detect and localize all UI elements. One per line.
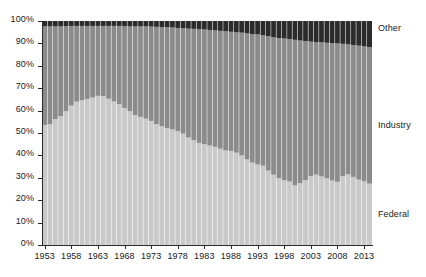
band-other bbox=[244, 21, 250, 33]
bar-separator bbox=[233, 21, 234, 245]
band-federal bbox=[90, 98, 96, 245]
bar-separator bbox=[52, 21, 53, 245]
band-industry bbox=[340, 44, 346, 176]
band-other bbox=[361, 21, 367, 46]
band-other bbox=[74, 21, 80, 26]
band-industry bbox=[159, 27, 165, 126]
band-industry bbox=[90, 26, 96, 98]
y-tick-label: 10% bbox=[16, 216, 34, 226]
bar-separator bbox=[356, 21, 357, 245]
band-federal bbox=[319, 176, 325, 245]
band-federal bbox=[186, 137, 192, 245]
band-federal bbox=[276, 178, 282, 245]
bar-separator bbox=[318, 21, 319, 245]
band-industry bbox=[234, 32, 240, 153]
band-other bbox=[345, 21, 351, 44]
band-industry bbox=[218, 31, 224, 149]
bar-separator bbox=[281, 21, 282, 245]
band-industry bbox=[228, 32, 234, 151]
series-label-industry: Industry bbox=[378, 120, 411, 130]
band-federal bbox=[250, 163, 256, 245]
band-other bbox=[58, 21, 64, 26]
y-tick-label: 60% bbox=[16, 104, 34, 114]
plot-area bbox=[42, 21, 372, 245]
band-federal bbox=[143, 119, 149, 245]
band-federal bbox=[196, 143, 202, 245]
band-other bbox=[101, 21, 107, 26]
band-other bbox=[271, 21, 277, 37]
bar-separator bbox=[340, 21, 341, 245]
band-industry bbox=[180, 28, 186, 134]
band-industry bbox=[127, 26, 133, 111]
bar-separator bbox=[297, 21, 298, 245]
bar-separator bbox=[191, 21, 192, 245]
bar-separator bbox=[185, 21, 186, 245]
stacked-area-chart: 0%10%20%30%40%50%60%70%80%90%100% 195319… bbox=[0, 0, 426, 277]
y-tick-mark bbox=[38, 21, 42, 22]
band-federal bbox=[132, 115, 138, 245]
bar-separator bbox=[153, 21, 154, 245]
x-tick-mark bbox=[364, 245, 365, 249]
y-tick-label: 20% bbox=[16, 193, 34, 203]
band-federal bbox=[95, 96, 101, 245]
band-federal bbox=[340, 176, 346, 245]
band-industry bbox=[207, 30, 213, 146]
band-other bbox=[191, 21, 197, 29]
x-tick-mark bbox=[151, 245, 152, 249]
bar-separator bbox=[68, 21, 69, 245]
band-federal bbox=[47, 124, 53, 245]
band-other bbox=[297, 21, 303, 40]
band-federal bbox=[292, 185, 298, 245]
band-industry bbox=[111, 26, 117, 101]
bar-separator bbox=[366, 21, 367, 245]
y-tick-label: 40% bbox=[16, 148, 34, 158]
y-tick-mark bbox=[38, 111, 42, 112]
band-other bbox=[287, 21, 293, 39]
band-other bbox=[266, 21, 272, 36]
bar-separator bbox=[90, 21, 91, 245]
band-federal bbox=[138, 117, 144, 245]
series-label-federal: Federal bbox=[378, 209, 409, 219]
band-federal bbox=[63, 111, 69, 245]
band-industry bbox=[271, 37, 277, 174]
y-tick-label: 100% bbox=[11, 14, 34, 24]
band-federal bbox=[329, 180, 335, 245]
bar-separator bbox=[239, 21, 240, 245]
x-tick-label: 1953 bbox=[34, 251, 54, 261]
y-tick-label: 50% bbox=[16, 126, 34, 136]
band-other bbox=[308, 21, 314, 42]
band-industry bbox=[47, 26, 53, 124]
x-tick-label: 1973 bbox=[141, 251, 161, 261]
x-tick-mark bbox=[45, 245, 46, 249]
band-industry bbox=[122, 26, 128, 108]
band-federal bbox=[74, 102, 80, 245]
x-tick-mark bbox=[204, 245, 205, 249]
bar-separator bbox=[100, 21, 101, 245]
band-federal bbox=[335, 182, 341, 245]
band-federal bbox=[266, 171, 272, 245]
band-other bbox=[85, 21, 91, 26]
bar-separator bbox=[228, 21, 229, 245]
band-federal bbox=[202, 144, 208, 245]
band-industry bbox=[143, 26, 149, 118]
band-other bbox=[148, 21, 154, 27]
band-other bbox=[313, 21, 319, 42]
x-axis-line bbox=[42, 245, 373, 246]
bar-separator bbox=[287, 21, 288, 245]
band-other bbox=[319, 21, 325, 42]
band-federal bbox=[122, 108, 128, 245]
x-tick-label: 1998 bbox=[274, 251, 294, 261]
bar-separator bbox=[116, 21, 117, 245]
band-federal bbox=[234, 153, 240, 245]
band-federal bbox=[324, 178, 330, 245]
band-federal bbox=[85, 99, 91, 245]
band-other bbox=[106, 21, 112, 26]
band-industry bbox=[319, 42, 325, 176]
band-industry bbox=[202, 30, 208, 145]
band-federal bbox=[255, 164, 261, 245]
band-industry bbox=[303, 41, 309, 180]
band-industry bbox=[191, 29, 197, 140]
bar-separator bbox=[122, 21, 123, 245]
band-industry bbox=[329, 43, 335, 180]
band-other bbox=[90, 21, 96, 26]
